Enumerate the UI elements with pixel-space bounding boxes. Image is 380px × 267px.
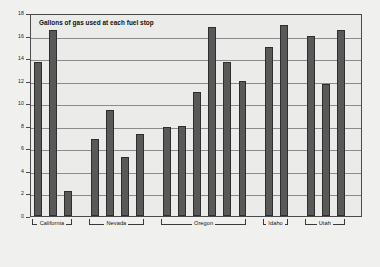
bars-container: [31, 15, 361, 216]
y-tick-label-2: 2: [21, 192, 24, 197]
bar[interactable]: [49, 30, 57, 216]
y-tick-label-18: 18: [18, 11, 24, 16]
group-label: Idaho: [268, 220, 283, 226]
group-label: Nevada: [106, 220, 126, 226]
group-oregon: Oregon: [161, 217, 247, 235]
plot-area: Gallons of gas used at each fuel stop: [30, 14, 362, 217]
chart-title: Gallons of gas used at each fuel stop: [39, 19, 154, 26]
y-tick-label-6: 6: [21, 147, 24, 152]
group-nevada: Nevada: [89, 217, 144, 235]
bar[interactable]: [121, 157, 129, 216]
y-tick-label-10: 10: [18, 102, 24, 107]
group-california: California: [32, 217, 72, 235]
group-label: California: [40, 220, 65, 226]
bar[interactable]: [34, 62, 42, 217]
group-line-right: [285, 224, 288, 225]
bar[interactable]: [322, 84, 330, 217]
bar[interactable]: [265, 47, 273, 216]
bar[interactable]: [163, 127, 171, 216]
y-tick-label-0: 0: [21, 214, 24, 219]
group-line-left: [305, 224, 317, 225]
bar[interactable]: [239, 81, 247, 216]
group-label: Oregon: [194, 220, 213, 226]
y-tick-label-4: 4: [21, 169, 24, 174]
group-labels: CaliforniaNevadaOregonIdahoUtah: [30, 217, 362, 241]
group-line-left: [161, 224, 192, 225]
group-line-right: [66, 224, 72, 225]
bar[interactable]: [337, 30, 345, 216]
group-line-right: [128, 224, 144, 225]
bar[interactable]: [64, 191, 72, 216]
bar[interactable]: [223, 62, 231, 217]
group-line-right: [333, 224, 345, 225]
group-line-left: [263, 224, 266, 225]
bar[interactable]: [91, 139, 99, 216]
y-tick-label-16: 16: [18, 34, 24, 39]
y-tick-label-14: 14: [18, 57, 24, 62]
group-idaho: Idaho: [263, 217, 288, 235]
bar[interactable]: [178, 126, 186, 216]
bar[interactable]: [106, 110, 114, 216]
group-line-right: [215, 224, 246, 225]
bar[interactable]: [136, 134, 144, 216]
group-label: Utah: [319, 220, 331, 226]
bar[interactable]: [208, 27, 216, 216]
bar[interactable]: [280, 25, 288, 216]
group-line-left: [32, 224, 38, 225]
y-axis: 024681012141618: [0, 14, 30, 217]
y-tick-label-12: 12: [18, 79, 24, 84]
chart-screenshot: 024681012141618 Gallons of gas used at e…: [0, 0, 380, 267]
group-line-left: [89, 224, 105, 225]
y-tick-label-8: 8: [21, 124, 24, 129]
group-utah: Utah: [305, 217, 345, 235]
bar[interactable]: [193, 92, 201, 216]
bar[interactable]: [307, 36, 315, 216]
